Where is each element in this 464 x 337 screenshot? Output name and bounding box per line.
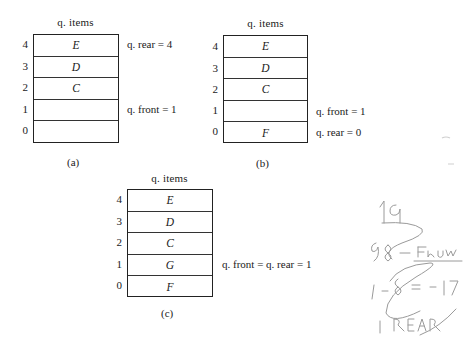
cell-1 (34, 100, 118, 122)
front-annotation: q. front = 1 (127, 103, 177, 115)
cell-4: E (224, 36, 307, 58)
cell-4: E (128, 190, 212, 212)
index-3: 3 (112, 215, 122, 227)
index-4: 4 (208, 40, 218, 52)
items-array: E D C G F (127, 189, 213, 297)
index-0: 0 (112, 279, 122, 291)
index-1: 1 (208, 104, 218, 116)
rear-annotation: q. rear = 4 (127, 38, 172, 50)
cell-3: D (224, 58, 307, 80)
cell-1 (224, 101, 307, 123)
front-rear-annotation: q. front = q. rear = 1 (222, 258, 311, 270)
front-annotation: q. front = 1 (316, 105, 366, 117)
cell-3: D (34, 57, 118, 79)
caption: (c) (161, 307, 173, 319)
cell-0: F (128, 276, 212, 298)
index-0: 0 (208, 125, 218, 137)
index-0: 0 (18, 124, 28, 136)
index-4: 4 (112, 193, 122, 205)
cell-2: C (34, 78, 118, 100)
items-title: q. items (223, 17, 308, 29)
cell-2: C (224, 79, 307, 101)
items-title: q. items (33, 16, 118, 28)
index-3: 3 (18, 60, 28, 72)
index-2: 2 (18, 81, 28, 93)
items-title: q. items (127, 172, 212, 184)
cell-2: C (128, 233, 212, 255)
index-1: 1 (18, 103, 28, 115)
caption: (b) (256, 157, 269, 169)
rear-annotation: q. rear = 0 (316, 126, 361, 138)
index-3: 3 (208, 62, 218, 74)
cell-1: G (128, 255, 212, 277)
handwritten-notes (360, 195, 464, 337)
cell-0: F (224, 122, 307, 144)
cell-0 (34, 121, 118, 143)
scan-marks (430, 130, 464, 170)
index-1: 1 (112, 258, 122, 270)
cell-4: E (34, 35, 118, 57)
index-2: 2 (208, 83, 218, 95)
cell-3: D (128, 212, 212, 234)
caption: (a) (67, 156, 79, 168)
index-4: 4 (18, 38, 28, 50)
items-array: E D C (33, 34, 119, 143)
items-array: E D C F (223, 35, 308, 143)
index-2: 2 (112, 236, 122, 248)
